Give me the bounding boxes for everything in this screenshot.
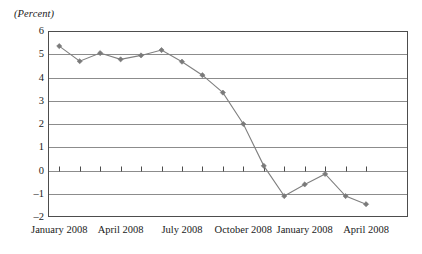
chart-figure: (Percent) 6543210–1–2 January 2008April … — [0, 0, 422, 254]
y-tick-label: 3 — [4, 96, 44, 106]
x-tick-label: July 2008 — [161, 224, 202, 236]
gridlines — [48, 55, 408, 195]
x-tick-label: October 2008 — [215, 224, 272, 236]
y-tick-label: 6 — [4, 26, 44, 36]
data-point-marker — [138, 53, 143, 58]
y-tick-label: –1 — [4, 189, 44, 199]
y-tick-label: 0 — [4, 166, 44, 176]
plot-area — [48, 31, 408, 217]
unit-caption: (Percent) — [14, 8, 54, 19]
y-tick-label: –2 — [4, 212, 44, 222]
data-point-marker — [302, 182, 307, 187]
y-axis-tick-labels: 6543210–1–2 — [0, 31, 44, 217]
data-point-marker — [159, 47, 164, 52]
x-tick-label: April 2008 — [98, 224, 144, 236]
y-tick-label: 1 — [4, 142, 44, 152]
x-axis-tick-labels: January 2008April 2008July 2008October 2… — [0, 224, 422, 244]
data-point-marker — [363, 202, 368, 207]
data-point-marker — [118, 57, 123, 62]
x-axis-tick-marks — [60, 167, 367, 172]
y-tick-label: 5 — [4, 49, 44, 59]
series-markers — [57, 44, 369, 207]
y-tick-label: 2 — [4, 119, 44, 129]
x-tick-label: January 2008 — [31, 224, 87, 236]
x-tick-label: January 2008 — [277, 224, 333, 236]
y-tick-label: 4 — [4, 73, 44, 83]
series-line — [59, 46, 366, 204]
line-chart-svg — [48, 31, 408, 217]
x-tick-label: April 2008 — [343, 224, 389, 236]
